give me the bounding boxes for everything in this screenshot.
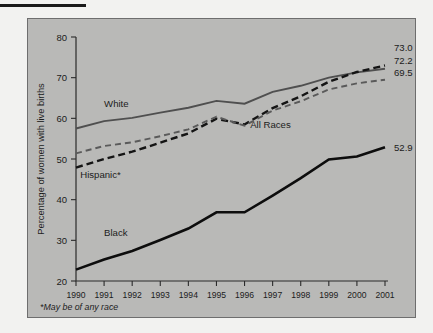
end-value-label-white: 72.2 [394, 55, 413, 66]
footnote-text: *May be of any race [40, 302, 118, 312]
y-tick-label: 80 [56, 32, 67, 43]
series-line-black [76, 147, 385, 269]
y-tick-label: 30 [56, 235, 67, 246]
x-tick-label: 1990 [66, 290, 85, 300]
chart-page: 20304050607080 1990199119921993199419951… [0, 0, 433, 333]
y-tick-label: 50 [56, 154, 67, 165]
x-tick-label: 2001 [375, 290, 394, 300]
x-tick-label: 1991 [95, 290, 114, 300]
series-label-black: Black [104, 227, 128, 238]
x-tick-label: 1996 [235, 290, 254, 300]
footnote-group: *May be of any race [40, 302, 118, 312]
series-line-all-races [76, 65, 385, 167]
x-tick-label: 1997 [263, 290, 282, 300]
x-tick-label: 1999 [319, 290, 338, 300]
y-tick-label: 20 [56, 276, 67, 287]
data-series-group [76, 65, 385, 269]
series-annotation-group: WhiteAll RacesHispanic*Black [80, 98, 291, 238]
series-label-hispanic: Hispanic* [80, 169, 121, 180]
series-label-all-races: All Races [250, 119, 291, 130]
y-axis-title-group: Percentage of women with live births [36, 83, 46, 235]
y-tick-label: 70 [56, 72, 67, 83]
series-label-white: White [104, 98, 129, 109]
x-axis-ticks: 1990199119921993199419951996199719981999… [66, 281, 394, 300]
top-rule-divider [0, 4, 86, 7]
x-tick-label: 1998 [291, 290, 310, 300]
x-tick-label: 2000 [347, 290, 366, 300]
end-value-label-group: 73.072.269.552.9 [394, 42, 413, 153]
x-tick-label: 1995 [207, 290, 226, 300]
series-line-hispanic [76, 80, 385, 154]
x-tick-label: 1992 [123, 290, 142, 300]
y-axis-ticks: 20304050607080 [56, 32, 76, 287]
end-value-label-hispanic: 69.5 [394, 67, 413, 78]
y-tick-label: 40 [56, 194, 67, 205]
chart-frame: 20304050607080 1990199119921993199419951… [27, 18, 416, 318]
end-value-label-all-races: 73.0 [394, 42, 413, 53]
x-tick-label: 1994 [179, 290, 198, 300]
line-chart: 20304050607080 1990199119921993199419951… [28, 19, 417, 319]
x-tick-label: 1993 [151, 290, 170, 300]
y-tick-label: 60 [56, 113, 67, 124]
end-value-label-black: 52.9 [394, 142, 413, 153]
y-axis-title: Percentage of women with live births [36, 83, 46, 235]
